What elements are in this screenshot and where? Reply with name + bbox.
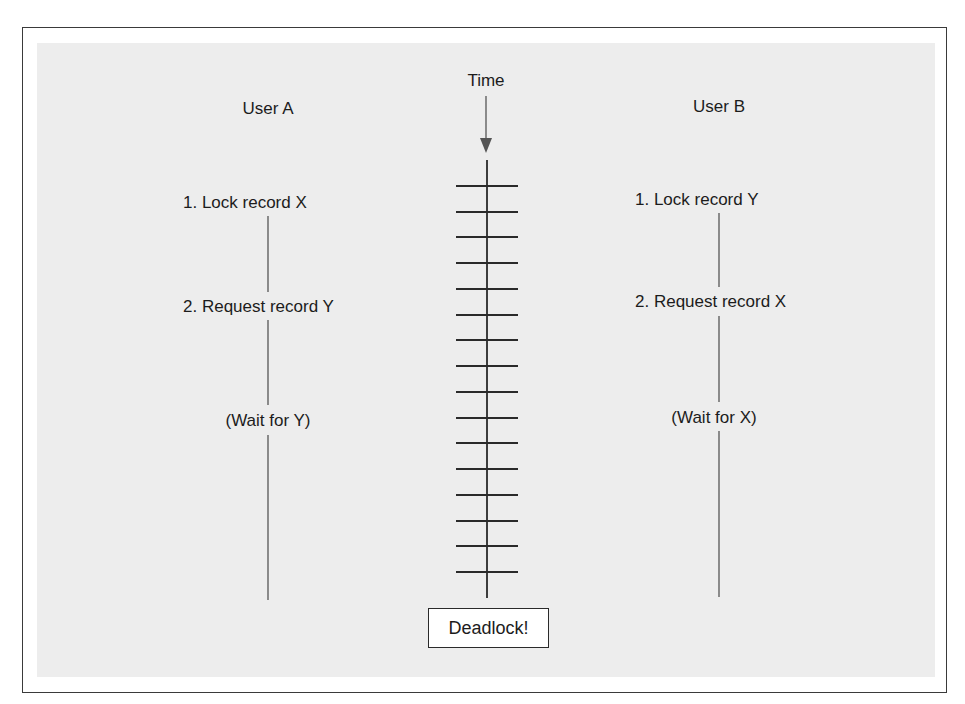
user-b-step-1: 1. Lock record Y [635, 190, 758, 210]
user-a-step-2: 2. Request record Y [183, 297, 334, 317]
time-label: Time [467, 71, 504, 91]
user-a-title: User A [242, 99, 293, 119]
deadlock-label: Deadlock! [448, 618, 528, 639]
user-a-wait: (Wait for Y) [225, 411, 310, 431]
time-arrow-icon [480, 96, 492, 153]
user-b-title: User B [693, 97, 745, 117]
user-a-step-1: 1. Lock record X [183, 193, 307, 213]
user-b-wait: (Wait for X) [671, 408, 756, 428]
time-axis [456, 160, 518, 598]
user-b-step-2: 2. Request record X [635, 292, 786, 312]
deadlock-box: Deadlock! [428, 608, 549, 648]
diagram-lines [0, 0, 965, 704]
